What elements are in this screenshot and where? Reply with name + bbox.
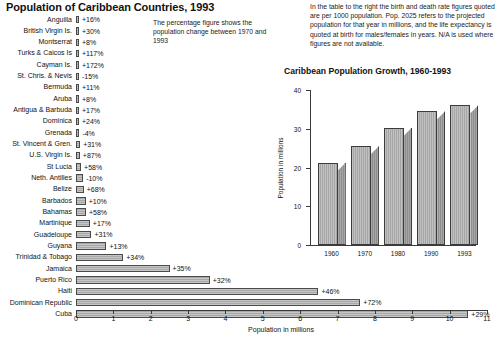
percent-change-label: +87% (83, 151, 101, 160)
country-bar (76, 231, 91, 238)
x-tick-label: 5 (261, 315, 265, 322)
country-bar (76, 16, 79, 23)
country-bar (76, 208, 86, 215)
x-tick (487, 310, 488, 314)
x-tick (412, 310, 413, 314)
country-bar (76, 129, 79, 136)
country-label: Bermuda (44, 82, 72, 91)
country-bar (76, 118, 79, 125)
country-label: Jamaica (46, 264, 72, 273)
country-label: Grenada (45, 128, 72, 137)
inset-x-tick-label: 1960 (324, 250, 338, 257)
percent-change-label: +8% (82, 95, 96, 104)
country-bar (76, 95, 79, 102)
percent-change-label: -10% (86, 174, 102, 183)
table-row: Puerto Rico+32% (0, 274, 500, 285)
x-tick (151, 310, 152, 314)
x-tick-label: 8 (373, 315, 377, 322)
percent-change-label: +58% (84, 163, 102, 172)
country-label: Barbados (42, 196, 72, 205)
table-row: Haiti+46% (0, 286, 500, 297)
country-bar (76, 265, 170, 272)
country-label: Dominica (43, 116, 72, 125)
inset-bar (318, 155, 346, 245)
inset-bar-side (338, 163, 346, 245)
inset-y-tick-label: 10 (294, 203, 301, 210)
x-tick-label: 10 (446, 315, 454, 322)
percent-change-label: +68% (87, 185, 105, 194)
inset-y-tick-label: 20 (294, 164, 301, 171)
percent-change-label: +31% (94, 230, 112, 239)
inset-y-axis-title: Population in millions (277, 137, 284, 198)
inset-x-tick-label: 1993 (457, 250, 471, 257)
country-bar (76, 288, 318, 295)
x-tick (225, 310, 226, 314)
percent-change-label: +10% (89, 197, 107, 206)
inset-y-axis (310, 90, 311, 246)
percent-change-label: +11% (82, 83, 100, 92)
country-bar (76, 73, 79, 80)
inset-y-tick (306, 206, 310, 207)
percent-change-label: +32% (213, 276, 231, 285)
country-bar (76, 163, 81, 170)
percent-change-label: +46% (321, 287, 339, 296)
country-bar (76, 61, 79, 68)
inset-bar-face (351, 146, 371, 245)
inset-bar (417, 103, 445, 245)
x-tick-label: 11 (483, 315, 490, 322)
x-tick (338, 310, 339, 314)
percent-change-label: -15% (82, 72, 98, 81)
country-bar (76, 174, 83, 181)
country-label: Haiti (58, 286, 72, 295)
x-axis: 01234567891011 Population in millions (0, 310, 500, 344)
country-label: Puerto Rico (35, 275, 72, 284)
country-label: St Lucia (47, 162, 72, 171)
percent-change-label: +72% (363, 298, 381, 307)
inset-y-tick-label: 0 (297, 242, 301, 249)
country-bar (76, 152, 80, 159)
x-tick (263, 310, 264, 314)
country-label: Martinique (39, 218, 72, 227)
inset-bar-side (404, 128, 412, 245)
percent-change-label: +117% (82, 49, 103, 58)
x-tick-label: 7 (336, 315, 340, 322)
country-label: Neth. Antilles (31, 173, 72, 182)
country-bar (76, 254, 123, 261)
inset-y-tick-label: 30 (294, 125, 301, 132)
percent-change-label: +17% (82, 106, 100, 115)
chart-page: Population of Caribbean Countries, 1993 … (0, 0, 500, 344)
percent-change-label: +13% (109, 242, 127, 251)
x-tick-label: 4 (224, 315, 228, 322)
x-tick (375, 310, 376, 314)
x-tick (300, 310, 301, 314)
country-label: St. Vincent & Gren. (12, 139, 72, 148)
x-axis-title: Population in millions (248, 326, 314, 333)
x-tick-label: 0 (74, 315, 78, 322)
table-row: British Virgin Is.+30% (0, 25, 500, 36)
inset-x-tick-label: 1980 (391, 250, 405, 257)
country-bar (76, 39, 79, 46)
country-label: Aruba (53, 94, 72, 103)
country-bar (76, 197, 86, 204)
x-tick-label: 6 (298, 315, 302, 322)
percent-change-label: +34% (126, 253, 144, 262)
inset-bar-side (437, 111, 445, 245)
page-title: Population of Caribbean Countries, 1993 (6, 1, 214, 13)
country-bar (76, 242, 106, 249)
x-tick (113, 310, 114, 314)
inset-bar-face (318, 163, 338, 245)
x-tick-label: 3 (186, 315, 190, 322)
country-label: Anguilla (47, 15, 72, 24)
inset-bar (351, 138, 379, 245)
percent-change-label: +8% (82, 38, 96, 47)
inset-y-tick (306, 90, 310, 91)
inset-bar-face (417, 111, 437, 245)
percent-change-label: -4% (82, 129, 94, 138)
percent-change-label: +17% (93, 219, 111, 228)
country-label: St. Chris. & Nevis (17, 71, 72, 80)
percent-change-label: +58% (89, 208, 107, 217)
percent-change-label: +30% (82, 27, 100, 36)
inset-bar-side (371, 146, 379, 245)
inset-bar-face (450, 105, 470, 245)
country-label: Bahamas (42, 207, 72, 216)
